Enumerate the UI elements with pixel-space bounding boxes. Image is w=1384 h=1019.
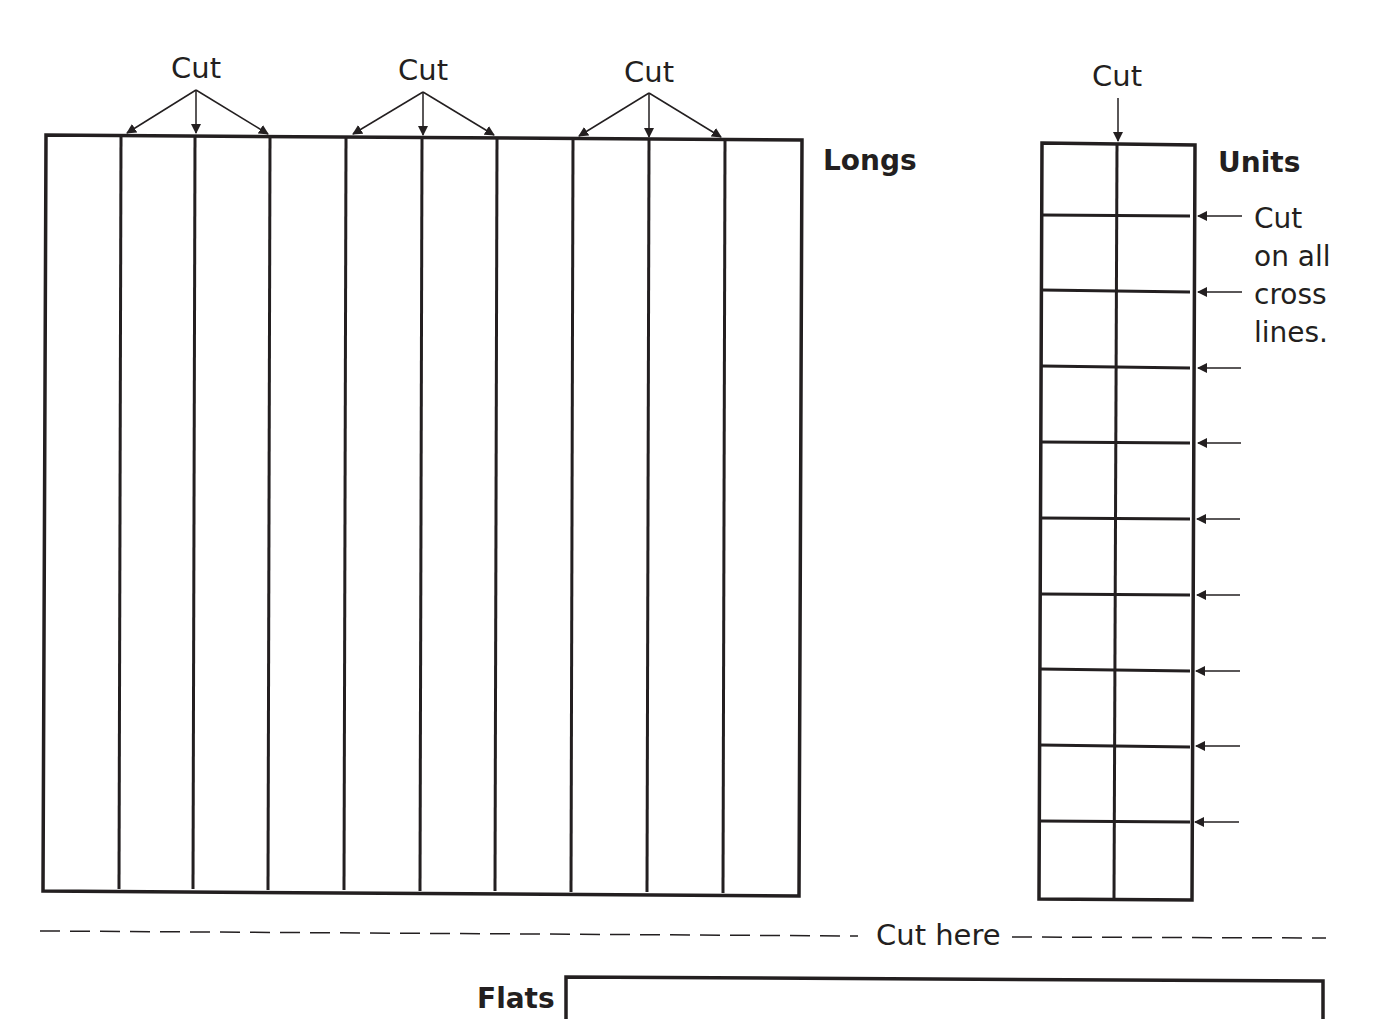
cut-here-divider xyxy=(40,931,1326,938)
longs-cut-label-2: Cut xyxy=(398,56,448,85)
longs-sheet xyxy=(43,135,802,896)
side-note-line-3: cross xyxy=(1254,276,1331,314)
worksheet-drawing xyxy=(0,0,1384,1019)
units-sheet xyxy=(1039,143,1195,900)
units-cut-arrows xyxy=(1118,98,1242,822)
longs-cut-label-3: Cut xyxy=(624,58,674,87)
flats-label: Flats xyxy=(477,985,555,1013)
units-cut-label: Cut xyxy=(1092,62,1142,91)
units-label: Units xyxy=(1218,149,1300,177)
units-side-note: Cut on all cross lines. xyxy=(1254,200,1331,352)
side-note-line-2: on all xyxy=(1254,238,1331,276)
flats-sheet xyxy=(566,977,1323,1019)
side-note-line-4: lines. xyxy=(1254,314,1331,352)
longs-cut-arrows xyxy=(127,90,721,137)
cut-here-label: Cut here xyxy=(876,921,1001,950)
longs-label: Longs xyxy=(823,147,917,175)
side-note-line-1: Cut xyxy=(1254,200,1331,238)
longs-cut-label-1: Cut xyxy=(171,54,221,83)
